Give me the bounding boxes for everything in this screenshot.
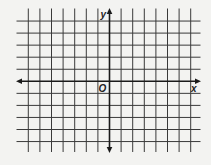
- origin-label: O: [99, 83, 107, 94]
- coordinate-plane: y x O: [0, 0, 211, 165]
- y-axis-up-arrow-icon: [107, 8, 113, 14]
- x-axis-label: x: [190, 83, 197, 94]
- y-axis-down-arrow-icon: [107, 147, 113, 153]
- x-axis: [16, 79, 201, 85]
- x-axis-left-arrow-icon: [16, 79, 22, 85]
- y-axis-label: y: [100, 9, 107, 20]
